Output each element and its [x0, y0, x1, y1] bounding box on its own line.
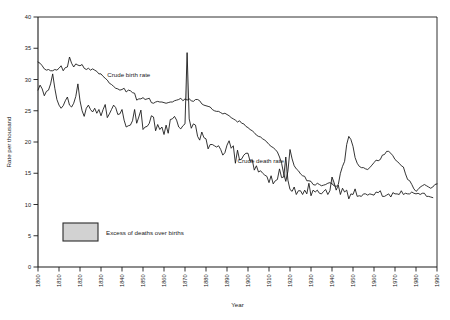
x-tick-label: 1810	[56, 275, 62, 287]
x-tick-label: 1930	[308, 275, 314, 287]
x-tick-label: 1860	[161, 275, 167, 287]
y-tick-label: 30	[25, 77, 31, 83]
x-tick-label: 1800	[35, 275, 41, 287]
y-tick-label: 5	[28, 233, 31, 239]
y-tick-label: 20	[25, 139, 31, 145]
x-tick-label: 1960	[371, 275, 377, 287]
x-tick-label: 1830	[98, 275, 104, 287]
x-tick-label: 1820	[77, 275, 83, 287]
x-tick-label: 1900	[245, 275, 251, 287]
x-tick-label: 1940	[329, 275, 335, 287]
y-tick-label: 0	[28, 264, 31, 270]
x-tick-label: 1840	[119, 275, 125, 287]
x-tick-label: 1920	[287, 275, 293, 287]
chart-background	[0, 0, 450, 320]
x-tick-label: 1980	[413, 275, 419, 287]
x-tick-label: 1890	[224, 275, 230, 287]
label-crude-birth-rate: Crude birth rate	[107, 71, 151, 78]
legend-swatch-excess-deaths	[63, 223, 98, 241]
x-tick-label: 1970	[392, 275, 398, 287]
x-tick-label: 1990	[434, 275, 440, 287]
legend-label-excess-deaths: Excess of deaths over births	[106, 229, 184, 236]
x-tick-label: 1870	[182, 275, 188, 287]
birth-death-rate-chart: 1800181018201830184018501860187018801890…	[0, 0, 450, 320]
y-axis-title: Rate per thousand	[5, 116, 12, 167]
y-tick-label: 10	[25, 202, 31, 208]
y-tick-label: 15	[25, 170, 31, 176]
chart-container: 1800181018201830184018501860187018801890…	[0, 0, 450, 320]
x-tick-label: 1850	[140, 275, 146, 287]
label-crude-death-rate: Crude death rate	[238, 157, 285, 164]
x-tick-label: 1910	[266, 275, 272, 287]
x-tick-label: 1950	[350, 275, 356, 287]
y-tick-label: 25	[25, 108, 31, 114]
x-tick-label: 1880	[203, 275, 209, 287]
y-tick-label: 35	[25, 45, 31, 51]
x-axis-title: Year	[231, 301, 244, 308]
y-tick-label: 40	[25, 14, 31, 20]
